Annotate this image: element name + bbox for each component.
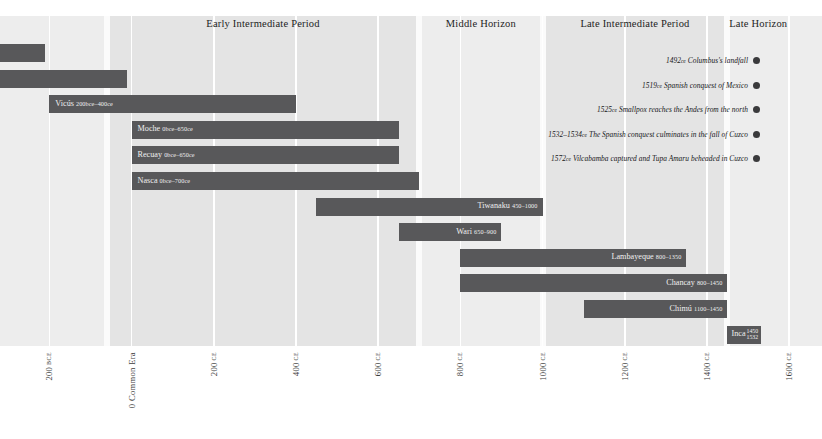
gridline [542, 16, 544, 346]
axis-tick-4: 600 CE [373, 352, 383, 376]
event-1: 1492ce Columbus's landfall [400, 56, 760, 65]
event-text: 1525ce Smallpox reaches the Andes from t… [597, 105, 748, 114]
gridline [49, 16, 51, 346]
bar-lambayeque: Lambayeque 800–1350 [460, 249, 686, 267]
gridline [788, 16, 790, 346]
gridline [624, 16, 626, 346]
bar-label: Moche 0bce–650ce [138, 125, 193, 134]
bar-unlabeled [0, 70, 127, 88]
bar-label: Nasca 0bce–700ce [138, 177, 191, 186]
axis-tick-9: 1600 CE [784, 352, 794, 381]
event-marker-dot [753, 131, 760, 138]
bar-nasca: Nasca 0bce–700ce [132, 172, 420, 190]
bar-wari: Wari 650–900 [399, 223, 502, 241]
axis-tick-7: 1200 CE [620, 352, 630, 381]
period-band [0, 16, 107, 346]
bar-unlabeled [0, 44, 45, 62]
timeline-chart: Early Intermediate PeriodMiddle HorizonL… [0, 0, 822, 439]
axis-tick-8: 1400 CE [702, 352, 712, 381]
bar-moche: Moche 0bce–650ce [132, 121, 399, 139]
axis-tick-0: 200 BCE [44, 352, 54, 381]
event-text: 1532–1534ce The Spanish conquest culmina… [548, 130, 748, 139]
axis-tick-3: 400 CE [291, 352, 301, 376]
band-separator [104, 16, 110, 346]
bar-tiwanaku: Tiwanaku 450–1000 [316, 198, 542, 216]
event-4: 1532–1534ce The Spanish conquest culmina… [400, 130, 760, 139]
period-band [727, 16, 822, 346]
event-5: 1572ce Vilcabamba captured and Tupa Amar… [400, 154, 760, 163]
axis-tick-1: 0 Common Era [127, 352, 137, 408]
bar-recuay: Recuay 0bce–650ce [132, 146, 399, 164]
axis-tick-2: 200 CE [209, 352, 219, 376]
event-text: 1572ce Vilcabamba captured and Tupa Amar… [551, 154, 748, 163]
event-text: 1492ce Columbus's landfall [666, 56, 748, 65]
bar-chancay: Chancay 800–1450 [460, 274, 727, 292]
bar-label: Tiwanaku 450–1000 [477, 202, 537, 211]
bar-label: Chimú 1100–1450 [670, 305, 723, 314]
bar-inca: Inca 14501532 [727, 326, 761, 344]
bar-label: Wari 650–900 [456, 228, 496, 237]
gridline [460, 16, 462, 346]
period-label-2: Middle Horizon [419, 18, 542, 29]
bar-vicús: Vicús 200bce–400ce [49, 95, 296, 113]
period-label-4: Late Horizon [727, 18, 789, 29]
event-marker-dot [753, 82, 760, 89]
event-3: 1525ce Smallpox reaches the Andes from t… [400, 105, 760, 114]
bar-label: Recuay 0bce–650ce [138, 151, 195, 160]
bar-label: Chancay 800–1450 [666, 279, 722, 288]
bar-label: Vicús 200bce–400ce [55, 100, 113, 109]
event-marker-dot [753, 106, 760, 113]
axis-tick-5: 800 CE [455, 352, 465, 376]
event-text: 1519ce Spanish conquest of Mexico [642, 81, 748, 90]
axis-tick-6: 1000 CE [538, 352, 548, 381]
event-2: 1519ce Spanish conquest of Mexico [400, 81, 760, 90]
bar-label: Inca 14501532 [731, 329, 758, 341]
gridline [706, 16, 708, 346]
period-band [419, 16, 542, 346]
bar-label: Lambayeque 800–1350 [611, 253, 681, 262]
band-separator [724, 16, 730, 346]
period-label-3: Late Intermediate Period [543, 18, 728, 29]
period-band [543, 16, 728, 346]
period-label-1: Early Intermediate Period [107, 18, 419, 29]
event-marker-dot [753, 155, 760, 162]
bar-chimú: Chimú 1100–1450 [584, 300, 728, 318]
event-marker-dot [753, 57, 760, 64]
